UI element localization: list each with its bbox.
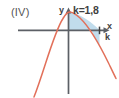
parameter-label: k=1,8 xyxy=(73,5,99,16)
panel-label: (IV) xyxy=(11,7,30,18)
k-tick-label: k xyxy=(105,33,110,42)
y-axis-label: y xyxy=(59,6,64,15)
x-axis-label: x xyxy=(107,22,112,31)
parabola-figure-panel: (IV) k=1,8 y x k xyxy=(0,0,119,98)
